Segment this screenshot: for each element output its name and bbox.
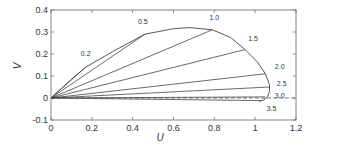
ray-label: 1.5 [248,35,258,42]
x-axis-label: U [156,132,164,143]
x-tick-label: 0 [48,123,53,133]
y-tick-label: 0 [43,93,48,103]
ray-line-0-5 [51,34,145,98]
ray-label: 0.5 [138,18,148,25]
x-tick-label: 1 [253,123,258,133]
x-tick-label: 0.2 [86,123,99,133]
ray-label: 2.0 [275,63,285,70]
ray-label: 3.5 [267,105,277,112]
ray-line-2-0 [51,74,265,98]
y-tick-label: 0.1 [35,71,48,81]
y-tick-label: 0.2 [35,49,48,59]
ray-line-2-5 [51,87,269,98]
x-tick-label: 0.8 [208,123,221,133]
ray-label: 2.5 [277,80,287,87]
x-tick-label: 0.6 [167,123,180,133]
ray-label: 3.0 [275,92,285,99]
y-tick-label: -0.1 [32,115,48,125]
y-tick-label: 0.3 [35,27,48,37]
envelope-curve [51,28,270,102]
x-tick-label: 0.4 [126,123,139,133]
y-axis-label: V [12,61,23,69]
ray-label: 0.2 [81,50,91,57]
plot-area: 00.20.40.60.811.2-0.100.10.20.30.40.20.5… [32,5,302,133]
x-tick-label: 1.2 [290,123,303,133]
y-tick-label: 0.4 [35,5,48,15]
chart: 00.20.40.60.811.2-0.100.10.20.30.40.20.5… [0,0,337,150]
ray-label: 1.0 [209,14,219,21]
